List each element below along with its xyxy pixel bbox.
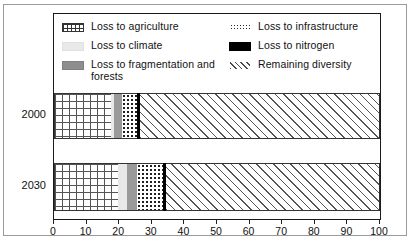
plot-area (54, 83, 380, 219)
x-tick-label-70: 70 (275, 225, 287, 237)
x-tick-label-40: 40 (178, 225, 190, 237)
x-tick-label-60: 60 (243, 225, 255, 237)
legend-label-agriculture: Loss to agriculture (91, 20, 179, 32)
legend-label-climate: Loss to climate (91, 39, 163, 51)
grid-swatch-icon (62, 23, 84, 32)
category-label-2000: 2000 (2, 108, 46, 120)
x-axis: 0102030405060708090100 (53, 220, 381, 240)
bar-row-2030 (54, 163, 380, 211)
segment-fragmentation-2000 (114, 93, 122, 139)
legend-label-nitrogen: Loss to nitrogen (258, 39, 334, 51)
legend-item-agriculture: Loss to agriculture (62, 20, 227, 34)
x-tick-label-10: 10 (80, 225, 92, 237)
x-tick-50 (216, 220, 217, 224)
segment-agriculture-2000 (54, 93, 111, 139)
x-tick-10 (86, 220, 87, 224)
legend-item-nitrogen: Loss to nitrogen (229, 39, 379, 53)
segment-infrastructure-2030 (137, 163, 163, 211)
chart-panel: Loss to agriculture Loss to climate Loss… (53, 13, 381, 220)
segment-infrastructure-2000 (122, 93, 137, 139)
dotted-swatch-icon (229, 23, 251, 32)
medium-gray-swatch-icon (62, 61, 84, 70)
segment-remaining-diversity-2030 (166, 163, 380, 211)
x-tick-label-0: 0 (50, 225, 56, 237)
stacked-bar-2030 (54, 163, 380, 211)
legend-label-fragmentation: Loss to fragmentation and forests (91, 58, 227, 82)
legend-label-infrastructure: Loss to infrastructure (258, 20, 358, 32)
x-tick-0 (53, 220, 54, 224)
x-tick-40 (183, 220, 184, 224)
segment-remaining-diversity-2000 (140, 93, 380, 139)
segment-climate-2030 (118, 163, 128, 211)
legend-column-right: Loss to infrastructure Loss to nitrogen … (229, 20, 379, 77)
black-swatch-icon (229, 42, 251, 51)
legend-item-climate: Loss to climate (62, 39, 227, 53)
x-tick-60 (249, 220, 250, 224)
chart-figure: Loss to agriculture Loss to climate Loss… (0, 0, 412, 242)
x-tick-20 (118, 220, 119, 224)
light-gray-swatch-icon (62, 42, 84, 51)
legend-item-fragmentation: Loss to fragmentation and forests (62, 58, 227, 82)
x-tick-label-20: 20 (112, 225, 124, 237)
category-label-2030: 2030 (2, 179, 46, 191)
x-tick-70 (281, 220, 282, 224)
x-tick-100 (379, 220, 380, 224)
legend-item-infrastructure: Loss to infrastructure (229, 20, 379, 34)
x-tick-80 (314, 220, 315, 224)
x-tick-30 (151, 220, 152, 224)
x-tick-label-100: 100 (370, 225, 388, 237)
x-tick-label-30: 30 (145, 225, 157, 237)
segment-fragmentation-2030 (127, 163, 137, 211)
x-tick-label-90: 90 (341, 225, 353, 237)
x-tick-90 (346, 220, 347, 224)
x-tick-label-80: 80 (308, 225, 320, 237)
segment-agriculture-2030 (54, 163, 118, 211)
legend-label-remaining-diversity: Remaining diversity (258, 58, 352, 70)
legend-item-remaining-diversity: Remaining diversity (229, 58, 379, 72)
hatch-swatch-icon (229, 61, 251, 70)
stacked-bar-2000 (54, 93, 380, 139)
x-tick-label-50: 50 (210, 225, 222, 237)
bar-row-2000 (54, 93, 380, 139)
chart-legend: Loss to agriculture Loss to climate Loss… (54, 14, 382, 83)
legend-column-left: Loss to agriculture Loss to climate Loss… (62, 20, 227, 87)
